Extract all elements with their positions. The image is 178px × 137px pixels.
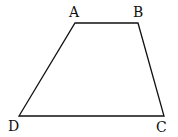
trapezoid-diagram: A B C D: [0, 0, 178, 137]
vertex-label-a: A: [68, 4, 80, 20]
vertex-label-b: B: [133, 4, 143, 20]
diagram-svg: A B C D: [0, 0, 178, 137]
trapezoid-abcd: [19, 23, 164, 116]
vertex-label-d: D: [8, 118, 19, 134]
vertex-label-c: C: [156, 119, 167, 135]
